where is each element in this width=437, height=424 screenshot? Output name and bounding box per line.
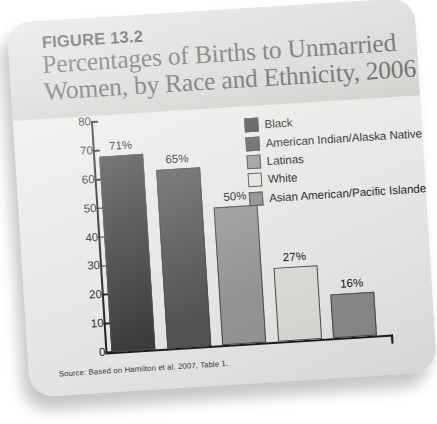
legend-swatch bbox=[246, 154, 261, 169]
legend-swatch bbox=[248, 173, 263, 188]
bar bbox=[330, 292, 377, 339]
bar-value-label: 71% bbox=[90, 138, 151, 154]
legend-swatch bbox=[244, 118, 259, 133]
bar bbox=[156, 167, 211, 349]
x-axis-end-cap bbox=[391, 335, 394, 344]
y-axis-tick-label: 0 bbox=[71, 346, 106, 360]
bar bbox=[99, 154, 155, 352]
y-axis-tick-label: 30 bbox=[66, 259, 101, 273]
y-axis-tick-label: 40 bbox=[64, 230, 99, 244]
figure-card: FIGURE 13.2 Percentages of Births to Unm… bbox=[7, 0, 437, 397]
y-axis-tick-label: 80 bbox=[57, 115, 92, 129]
bar-value-label: 16% bbox=[321, 275, 382, 291]
figure-screenshot: FIGURE 13.2 Percentages of Births to Unm… bbox=[0, 0, 437, 424]
y-axis-tick-label: 70 bbox=[58, 144, 93, 158]
legend-swatch bbox=[245, 136, 260, 151]
legend-item-label: Latinas bbox=[266, 153, 304, 167]
chart-legend: BlackAmerican Indian/Alaska NativeLatina… bbox=[244, 105, 425, 208]
y-axis-tick-label: 20 bbox=[68, 288, 103, 302]
y-axis-tick-label: 60 bbox=[60, 173, 95, 187]
y-axis-tick-label: 50 bbox=[62, 202, 97, 216]
bar bbox=[273, 265, 322, 342]
y-axis-tick-label: 10 bbox=[69, 317, 104, 331]
legend-swatch bbox=[249, 191, 264, 206]
bar bbox=[214, 205, 267, 345]
legend-item-label: White bbox=[268, 172, 298, 186]
source-note: Source: Based on Hamilton et al. 2007, T… bbox=[58, 359, 228, 379]
legend-item-label: Black bbox=[264, 117, 293, 131]
bar-value-label: 27% bbox=[264, 248, 325, 264]
bar-value-label: 65% bbox=[147, 151, 208, 167]
